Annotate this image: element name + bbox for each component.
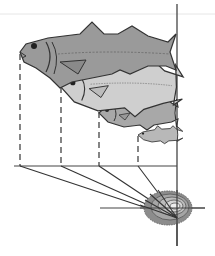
otolith-backcalculation-diagram <box>0 0 215 256</box>
